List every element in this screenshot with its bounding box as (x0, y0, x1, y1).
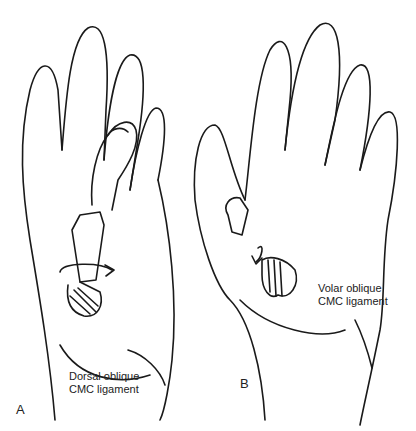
panel-letter-a: A (16, 402, 25, 417)
label-volar-oblique: Volar oblique CMC ligament (318, 282, 388, 308)
label-line-1: Dorsal oblique (69, 370, 139, 383)
hand-b-illustration (194, 23, 397, 425)
hand-a-illustration (22, 27, 174, 420)
hand-illustrations (0, 0, 416, 431)
label-line-2: CMC ligament (69, 383, 139, 396)
label-dorsal-oblique: Dorsal oblique CMC ligament (69, 370, 139, 396)
panel-letter-b: B (240, 376, 249, 391)
label-line-2: CMC ligament (318, 295, 388, 308)
label-line-1: Volar oblique (318, 282, 388, 295)
